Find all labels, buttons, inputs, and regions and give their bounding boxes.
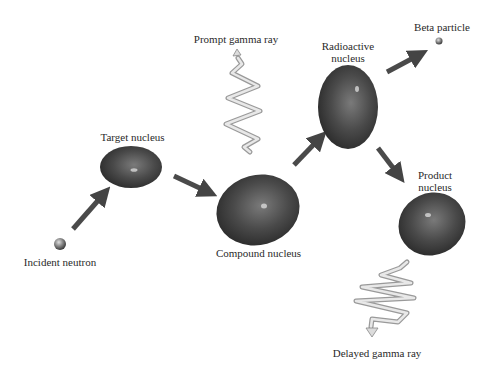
diagram: Incident neutron Target nucleus Compound… bbox=[0, 0, 491, 367]
compound-nucleus bbox=[208, 165, 307, 254]
label-incident-neutron: Incident neutron bbox=[20, 256, 100, 268]
arrow-compound-to-radioactive bbox=[294, 140, 318, 165]
product-nucleus bbox=[388, 182, 476, 267]
label-target-nucleus: Target nucleus bbox=[90, 131, 175, 143]
incident-neutron-ball bbox=[54, 238, 66, 250]
prompt-gamma-ray-icon bbox=[226, 49, 260, 152]
delayed-gamma-ray-icon bbox=[356, 262, 414, 337]
arrow-radioactive-to-beta bbox=[387, 56, 417, 72]
radioactive-nucleus bbox=[318, 65, 378, 149]
radioactive-nucleus-highlight bbox=[355, 86, 359, 92]
arrow-target-to-compound bbox=[174, 176, 206, 191]
label-product-nucleus: Product nucleus bbox=[405, 169, 465, 193]
arrow-radioactive-to-product bbox=[378, 148, 397, 173]
label-radioactive-line1: Radioactive bbox=[313, 40, 383, 52]
label-prompt-gamma-ray: Prompt gamma ray bbox=[186, 33, 286, 45]
label-radioactive-nucleus: Radioactive nucleus bbox=[313, 40, 383, 64]
beta-particle-ball bbox=[436, 38, 443, 45]
label-radioactive-line2: nucleus bbox=[313, 52, 383, 64]
product-nucleus-highlight bbox=[425, 213, 431, 217]
label-product-line1: Product bbox=[405, 169, 465, 181]
label-beta-particle: Beta particle bbox=[407, 21, 477, 33]
label-product-line2: nucleus bbox=[405, 181, 465, 193]
compound-nucleus-highlight bbox=[261, 204, 267, 209]
arrow-neutron-to-target bbox=[73, 196, 102, 229]
target-nucleus-highlight bbox=[131, 168, 138, 172]
target-nucleus bbox=[100, 146, 162, 188]
label-compound-nucleus: Compound nucleus bbox=[206, 247, 311, 259]
label-delayed-gamma-ray: Delayed gamma ray bbox=[322, 347, 432, 359]
